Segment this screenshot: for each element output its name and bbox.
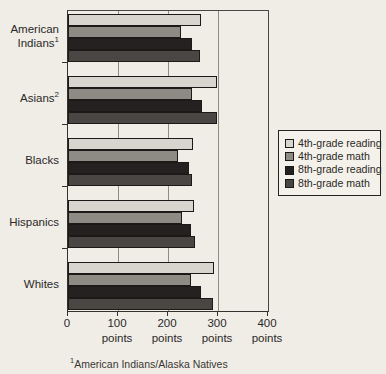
legend-label: 8th-grade math: [298, 177, 370, 190]
x-tick-label: 0: [41, 316, 93, 331]
y-axis-tick: [62, 62, 67, 63]
category-label: Asians2: [0, 75, 59, 123]
bar: [68, 50, 200, 62]
y-axis-tick: [62, 186, 67, 187]
legend-swatch-icon: [285, 152, 294, 161]
bar: [68, 150, 178, 162]
category-label: Blacks: [0, 137, 59, 185]
bar: [68, 262, 214, 274]
legend-item: 4th-grade math: [285, 150, 376, 163]
legend-swatch-icon: [285, 139, 294, 148]
x-tick-label: 400points: [241, 316, 293, 346]
category-label: Hispanics: [0, 199, 59, 247]
category-label: American Indians1: [0, 13, 59, 61]
bar: [68, 212, 182, 224]
bar: [68, 112, 217, 124]
footnote-text: American Indians/Alaska Natives: [74, 358, 228, 370]
bar: [68, 236, 195, 248]
x-tick-label: 300points: [191, 316, 243, 346]
y-axis-tick: [62, 124, 67, 125]
bar: [68, 14, 201, 26]
bar: [68, 100, 202, 112]
bar: [68, 286, 201, 298]
chart-footnote: 1American Indians/Alaska Natives: [70, 356, 228, 370]
plot-area: [67, 10, 269, 312]
bar: [68, 200, 194, 212]
legend: 4th-grade reading4th-grade math8th-grade…: [278, 130, 381, 196]
bar: [68, 174, 192, 186]
legend-swatch-icon: [285, 166, 294, 175]
x-tick-unit: points: [191, 331, 243, 346]
x-tick-unit: points: [91, 331, 143, 346]
x-tick-label: 200points: [141, 316, 193, 346]
legend-label: 4th-grade math: [298, 150, 370, 163]
gridline-300: [218, 11, 219, 311]
x-tick-unit: points: [241, 331, 293, 346]
x-tick-unit: points: [141, 331, 193, 346]
legend-label: 8th-grade reading: [298, 163, 382, 176]
legend-item: 8th-grade math: [285, 177, 376, 190]
bar: [68, 162, 189, 174]
y-axis-tick: [62, 248, 67, 249]
legend-item: 8th-grade reading: [285, 163, 376, 176]
bar: [68, 88, 192, 100]
bar: [68, 38, 192, 50]
bar: [68, 26, 181, 38]
legend-swatch-icon: [285, 179, 294, 188]
bar: [68, 76, 217, 88]
legend-item: 4th-grade reading: [285, 137, 376, 150]
bar: [68, 138, 193, 150]
chart-figure: American Indians1Asians2BlacksHispanicsW…: [0, 0, 386, 374]
y-axis-labels: American Indians1Asians2BlacksHispanicsW…: [0, 10, 63, 310]
x-tick-label: 100points: [91, 316, 143, 346]
category-label: Whites: [0, 261, 59, 309]
legend-label: 4th-grade reading: [298, 137, 382, 150]
bar: [68, 224, 191, 236]
bar: [68, 274, 191, 286]
bar: [68, 298, 213, 310]
